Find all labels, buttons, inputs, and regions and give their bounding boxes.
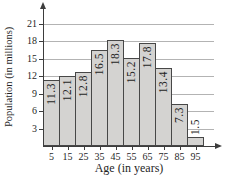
y-tick-label: 15 — [16, 53, 37, 64]
x-tick — [100, 147, 101, 150]
bar-value-wrap: 12.1 — [59, 79, 76, 101]
bar-value-label: 15.2 — [126, 61, 138, 83]
bar-value-label: 1.5 — [190, 119, 202, 135]
y-tick-label: 12 — [16, 70, 37, 81]
x-tick — [196, 147, 197, 150]
x-tick — [52, 147, 53, 150]
bar-value-label: 17.8 — [142, 46, 154, 68]
bar-value-wrap: 18.3 — [107, 43, 124, 65]
bar-value-wrap: 12.8 — [75, 75, 92, 97]
y-tick-label: 6 — [16, 105, 37, 116]
y-tick-label: 21 — [16, 18, 37, 29]
x-tick — [148, 147, 149, 150]
gridline — [43, 41, 214, 42]
gridline — [43, 24, 214, 25]
bar-value-label: 11.3 — [46, 83, 58, 105]
bar-value-wrap: 11.3 — [43, 83, 60, 105]
bar-value-wrap: 7.3 — [171, 107, 188, 123]
bar-95 — [187, 137, 204, 146]
bar-value-label: 16.5 — [94, 53, 106, 75]
x-tick — [68, 147, 69, 150]
x-axis-arrow — [215, 143, 222, 149]
y-axis-line — [43, 8, 44, 147]
bar-value-wrap: 13.4 — [155, 71, 172, 93]
y-axis-arrow — [40, 2, 46, 9]
x-tick — [116, 147, 117, 150]
bar-value-label: 12.1 — [62, 79, 74, 101]
y-tick-label: 18 — [16, 35, 37, 46]
bar-value-label: 7.3 — [174, 107, 186, 123]
population-age-histogram: Population (in millions) 3691215182111.3… — [0, 0, 225, 189]
x-axis-line — [43, 146, 215, 147]
bar-value-wrap: 1.5 — [187, 119, 204, 135]
x-tick — [132, 147, 133, 150]
x-tick — [180, 147, 181, 150]
bar-value-wrap: 15.2 — [123, 61, 140, 83]
y-tick-label: 3 — [16, 123, 37, 134]
bar-value-label: 18.3 — [110, 43, 122, 65]
x-tick — [164, 147, 165, 150]
y-tick-label: 9 — [16, 88, 37, 99]
bar-value-label: 13.4 — [158, 71, 170, 93]
x-tick — [84, 147, 85, 150]
x-axis-title: Age (in years) — [44, 161, 214, 176]
bar-value-wrap: 16.5 — [91, 53, 108, 75]
bar-value-wrap: 17.8 — [139, 46, 156, 68]
bar-value-label: 12.8 — [78, 75, 90, 97]
